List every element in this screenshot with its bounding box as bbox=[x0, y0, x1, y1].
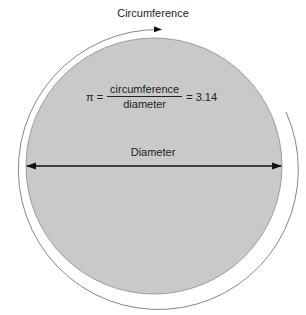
formula-denominator: diameter bbox=[123, 97, 166, 110]
pi-diagram: Circumference π = circumference diameter… bbox=[0, 0, 306, 315]
formula-numerator: circumference bbox=[107, 83, 182, 97]
diameter-label: Diameter bbox=[0, 146, 306, 158]
formula-lhs: π = bbox=[86, 91, 103, 103]
formula-fraction: circumference diameter bbox=[107, 83, 182, 110]
formula-rhs: = 3.14 bbox=[186, 91, 217, 103]
circumference-label: Circumference bbox=[0, 7, 306, 19]
pi-formula: π = circumference diameter = 3.14 bbox=[86, 83, 217, 110]
